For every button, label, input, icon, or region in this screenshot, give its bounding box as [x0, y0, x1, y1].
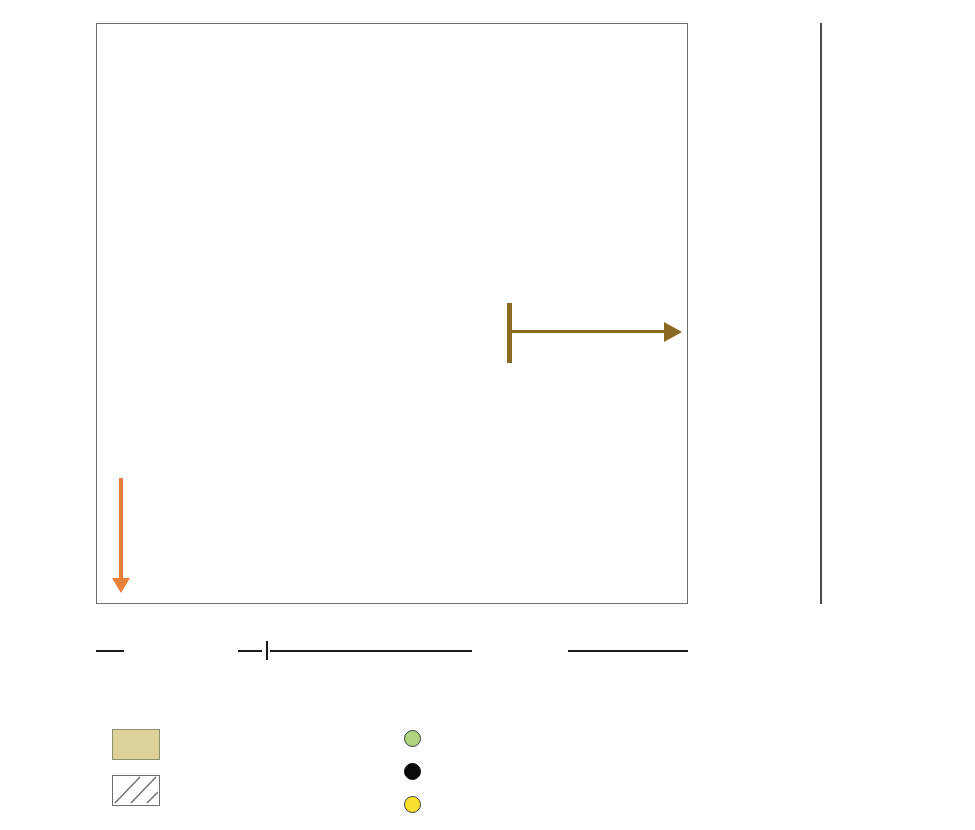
- legend-item-tremor-events: [404, 730, 443, 747]
- swarm-onset-arrow-shaft: [119, 478, 123, 580]
- legend-swatch-phone-inquiries: [112, 729, 160, 760]
- month-divider-tick: [266, 641, 268, 660]
- september-rule-right: [238, 650, 262, 652]
- legend-swatch-web-site-inquiries: [112, 775, 160, 806]
- legend-item-lahar-activity: [404, 796, 443, 813]
- legend-dot-lahar-activity: [404, 796, 421, 813]
- legend-dot-tremor-events: [404, 730, 421, 747]
- dome-extrusion-arrow-head: [664, 322, 682, 342]
- october-rule-left: [270, 650, 472, 652]
- october-rule-right: [568, 650, 688, 652]
- legend-item-web-site-inquiries: [112, 775, 178, 806]
- legend-item-phone-inquiries: [112, 729, 178, 760]
- swarm-onset-arrow-head: [112, 578, 130, 593]
- dome-extrusion-start-bar: [507, 303, 512, 363]
- september-rule-left: [96, 650, 124, 652]
- legend-item-steam-and-ash-explosions: [404, 763, 443, 780]
- hatch-swatch-icon: [113, 776, 158, 804]
- plot-frame: [96, 23, 688, 604]
- far-right-axis-spine: [820, 23, 822, 604]
- dome-extrusion-arrow-line: [507, 330, 667, 333]
- legend-dot-steam-and-ash-explosions: [404, 763, 421, 780]
